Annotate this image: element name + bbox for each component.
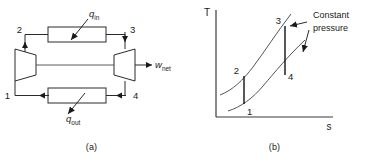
ts-diagram-drawing: T s 2 1 3 4 Constant pressure xyxy=(183,0,366,140)
low-pressure-isobar xyxy=(228,40,305,111)
line-exchanger-to-3 xyxy=(106,35,125,50)
ts-state-label-1: 1 xyxy=(247,106,252,117)
heat-addition-exchanger xyxy=(48,27,106,42)
turbine xyxy=(114,49,135,81)
q-in-label: qin xyxy=(89,8,100,21)
state-label-1: 1 xyxy=(5,90,10,101)
cycle-schematic-drawing: 2 3 1 4 qin qout wnet xyxy=(0,0,183,140)
line-4-to-exchanger xyxy=(106,81,125,96)
constant-pressure-arrow-upper xyxy=(290,22,307,26)
line-exchanger-to-1 xyxy=(15,81,48,96)
caption-b: (b) xyxy=(183,142,366,152)
ts-state-label-2: 2 xyxy=(234,65,239,76)
x-axis-label: s xyxy=(327,121,332,132)
y-axis-label: T xyxy=(204,7,210,18)
brayton-cycle-figure: 2 3 1 4 qin qout wnet (a) xyxy=(0,0,366,165)
w-net-label: wnet xyxy=(155,59,171,72)
q-in-leader-arrow xyxy=(71,19,88,40)
w-net-subscript: net xyxy=(162,65,171,72)
state-label-3: 3 xyxy=(130,24,135,35)
q-in-subscript: in xyxy=(94,14,99,21)
panel-b-ts-diagram: T s 2 1 3 4 Constant pressure (b) xyxy=(183,0,366,165)
panel-a-schematic: 2 3 1 4 qin qout wnet (a) xyxy=(0,0,183,165)
line-2-to-exchanger xyxy=(25,35,48,50)
ts-state-label-3: 3 xyxy=(276,15,281,26)
state-label-4: 4 xyxy=(133,90,138,101)
compressor xyxy=(15,49,36,81)
q-out-label: qout xyxy=(66,113,81,126)
ts-state-label-4: 4 xyxy=(288,71,293,82)
caption-a: (a) xyxy=(0,142,183,152)
heat-rejection-exchanger xyxy=(48,88,106,103)
high-pressure-isobar xyxy=(220,14,291,95)
q-out-subscript: out xyxy=(71,119,80,126)
constant-pressure-label-line2: pressure xyxy=(313,23,348,33)
state-label-2: 2 xyxy=(17,24,22,35)
constant-pressure-label-line1: Constant xyxy=(313,10,350,20)
